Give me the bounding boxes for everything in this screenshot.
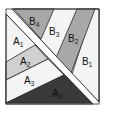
quilt-block-diagram: B4 B3 B2 B1 A1 A2 A3 A4 [0,0,114,113]
